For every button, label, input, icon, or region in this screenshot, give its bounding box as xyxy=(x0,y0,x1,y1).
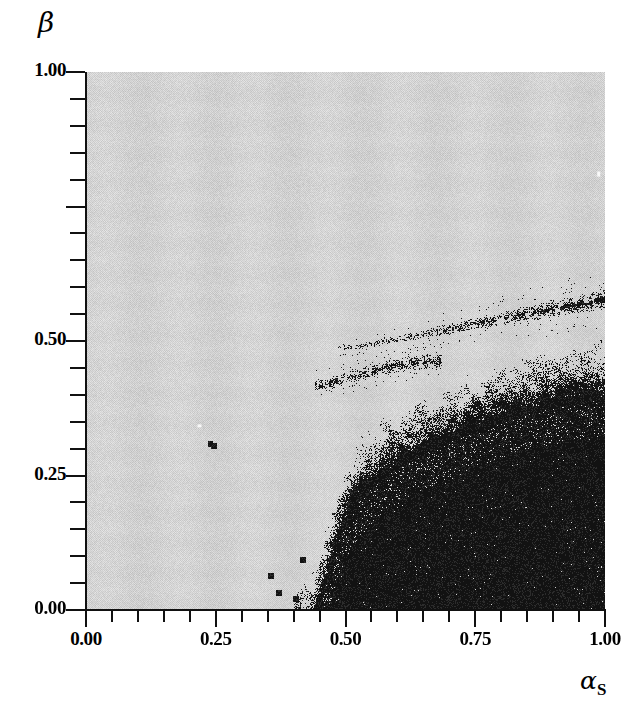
x-axis-minor-tick xyxy=(578,611,580,622)
x-axis-minor-tick xyxy=(319,611,321,622)
y-axis-minor-tick xyxy=(70,367,85,369)
plot-area xyxy=(86,72,605,610)
phase-diagram-figure: β 0.000.250.501.000.000.250.500.751.00 α… xyxy=(0,0,641,722)
x-axis-tick-label: 0.50 xyxy=(306,628,386,650)
x-axis-tick-label: 1.00 xyxy=(565,628,641,650)
x-axis-major-tick xyxy=(85,611,87,627)
y-axis-minor-tick xyxy=(70,179,85,181)
x-axis-tick-label: 0.75 xyxy=(435,628,515,650)
y-axis-title: β xyxy=(38,6,54,39)
y-axis-minor-tick xyxy=(70,582,85,584)
x-axis-minor-tick xyxy=(137,611,139,622)
x-axis-title-base: α xyxy=(580,666,597,695)
y-axis-minor-tick xyxy=(70,528,85,530)
x-axis-minor-tick xyxy=(189,611,191,622)
y-axis-minor-tick xyxy=(70,286,85,288)
y-axis-major-tick xyxy=(66,206,85,208)
y-axis-major-tick xyxy=(66,71,85,73)
y-axis-line xyxy=(85,72,87,611)
phase-diagram-canvas xyxy=(86,72,605,610)
x-axis-minor-tick xyxy=(552,611,554,622)
y-axis-tick-label: 1.00 xyxy=(6,59,66,81)
y-axis-minor-tick xyxy=(70,259,85,261)
y-axis-minor-tick xyxy=(70,152,85,154)
x-axis-major-tick xyxy=(215,611,217,627)
y-axis-minor-tick xyxy=(70,125,85,127)
y-axis-minor-tick xyxy=(70,421,85,423)
y-axis-minor-tick xyxy=(70,98,85,100)
x-axis-minor-tick xyxy=(163,611,165,622)
x-axis-minor-tick xyxy=(241,611,243,622)
y-axis-minor-tick xyxy=(70,313,85,315)
x-axis-minor-tick xyxy=(293,611,295,622)
x-axis-title: αS xyxy=(580,666,606,700)
y-axis-minor-tick xyxy=(70,501,85,503)
x-axis-minor-tick xyxy=(526,611,528,622)
x-axis-major-tick xyxy=(345,611,347,627)
y-axis-tick-label: 0.25 xyxy=(6,463,66,485)
y-axis-minor-tick xyxy=(70,555,85,557)
x-axis-minor-tick xyxy=(500,611,502,622)
x-axis-minor-tick xyxy=(422,611,424,622)
y-axis-minor-tick xyxy=(70,394,85,396)
y-axis-major-tick xyxy=(66,475,85,477)
x-axis-major-tick xyxy=(474,611,476,627)
x-axis-title-subscript: S xyxy=(597,680,606,699)
y-axis-minor-tick xyxy=(70,232,85,234)
y-axis-tick-label: 0.00 xyxy=(6,597,66,619)
x-axis-minor-tick xyxy=(267,611,269,622)
x-axis-major-tick xyxy=(604,611,606,627)
x-axis-tick-label: 0.00 xyxy=(46,628,126,650)
y-axis-major-tick xyxy=(66,609,85,611)
x-axis-minor-tick xyxy=(396,611,398,622)
y-axis-major-tick xyxy=(66,340,85,342)
x-axis-minor-tick xyxy=(111,611,113,622)
x-axis-minor-tick xyxy=(370,611,372,622)
x-axis-tick-label: 0.25 xyxy=(176,628,256,650)
y-axis-tick-label: 0.50 xyxy=(6,328,66,350)
y-axis-minor-tick xyxy=(70,448,85,450)
x-axis-minor-tick xyxy=(448,611,450,622)
